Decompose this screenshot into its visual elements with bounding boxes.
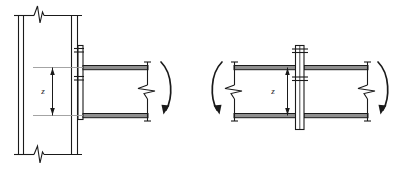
break-symbol-icon [138,85,155,99]
beam-left-top-flange [234,66,296,70]
right-detail-group: z [212,46,387,130]
splice-plate [296,46,305,130]
moment-rotation-arrow-left [212,62,222,115]
beam-top-flange [83,66,148,70]
moment-rotation-arrow-right [378,62,388,115]
break-symbol-icon [225,85,242,99]
end-plate [78,46,83,120]
rotation-arc [161,62,171,110]
dimension-arrowhead-bottom [50,108,55,115]
dimension-label-z: z [270,86,275,96]
rotation-arc [212,62,222,110]
break-symbol-icon [358,85,375,99]
beam-right-section [304,62,375,121]
lever-arm-dimension: z [33,68,83,116]
rotation-arc [378,62,388,110]
rotation-arrowhead [214,105,222,115]
left-detail-group: z [14,6,171,163]
dimension-label-z: z [40,86,45,96]
break-symbol-icon [34,6,44,23]
rotation-arrowhead [379,105,387,115]
drawing-canvas: z [0,0,413,170]
moment-rotation-arrow-right [161,62,171,115]
end-plate-outline [78,46,83,120]
beam-left-section [225,62,296,121]
dimension-arrowhead-top [50,68,55,75]
lever-arm-dimension: z [270,68,290,116]
beam-left-bottom-flange [234,114,296,118]
beam-bottom-flange [83,114,148,118]
beam-right-top-flange [304,66,368,70]
break-symbol-icon [34,146,44,163]
beam-section [83,62,155,121]
column-section [19,16,78,154]
connection-detail-figure: z [0,0,413,170]
rotation-arrowhead [162,105,170,115]
beam-right-bottom-flange [304,114,368,118]
